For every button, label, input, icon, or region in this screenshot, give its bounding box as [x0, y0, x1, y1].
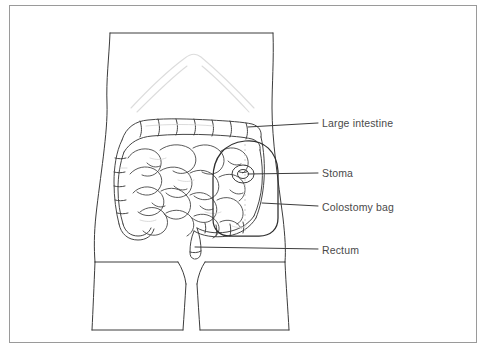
- label-rectum: Rectum: [322, 245, 359, 256]
- leader-large-intestine: [248, 123, 318, 127]
- anatomy-illustration: [0, 0, 486, 348]
- ribcage-arch: [131, 54, 254, 112]
- label-large-intestine: Large intestine: [322, 118, 393, 129]
- rectum: [190, 228, 201, 259]
- leader-colostomy-bag: [262, 203, 318, 206]
- label-colostomy-bag: Colostomy bag: [322, 202, 394, 213]
- intestine-shading: [120, 125, 246, 228]
- leader-rectum: [195, 247, 318, 249]
- torso-outline: [92, 33, 289, 330]
- leader-stoma: [248, 173, 318, 174]
- label-stoma: Stoma: [322, 168, 353, 179]
- diagram-canvas: Large intestine Stoma Colostomy bag Rect…: [0, 0, 486, 348]
- large-intestine: [114, 119, 264, 240]
